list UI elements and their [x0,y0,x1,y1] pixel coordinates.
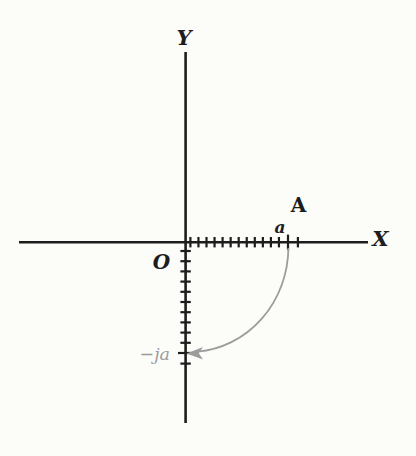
origin-label: O [153,250,171,274]
figure-svg: Y X O A a −ja [0,0,416,456]
x-axis-label: X [370,226,389,251]
rotated-point-label: −ja [139,344,170,364]
rotation-arc [198,248,289,352]
point-a-coordinate-label: a [274,217,285,237]
diagram-canvas: Y X O A a −ja [0,0,416,456]
rotation-arrowhead-icon [187,347,204,360]
y-axis-label: Y [177,25,194,50]
point-a-label: A [290,193,307,217]
